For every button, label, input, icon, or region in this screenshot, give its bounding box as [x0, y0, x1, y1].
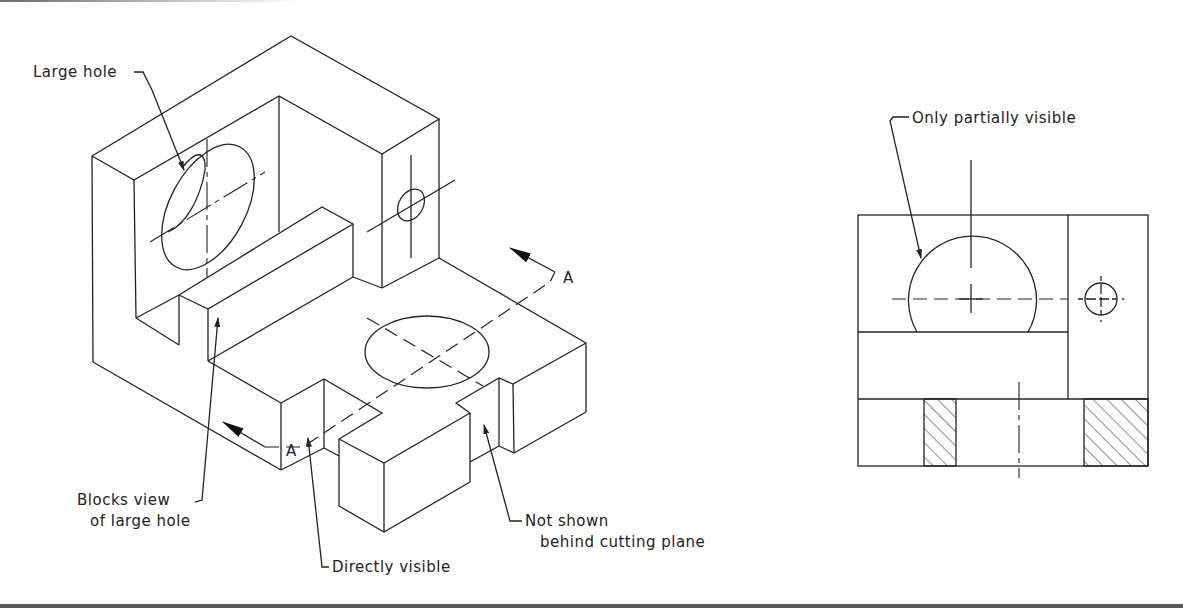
- front-block-bottom: [339, 482, 470, 532]
- top-frame-edge: [0, 0, 300, 2]
- section-arrow-right: [510, 248, 555, 272]
- orthographic-section-view: Only partially visible: [858, 109, 1148, 478]
- slot-floor: [136, 318, 179, 345]
- leader-directly-visible: [308, 438, 329, 567]
- large-hole-inner-edge: [168, 155, 205, 232]
- label-blocks-view-1: Blocks view: [77, 491, 170, 509]
- section-letter-left: A: [286, 442, 297, 460]
- isometric-view: A A Large hole Blocks view of large hole…: [33, 36, 705, 576]
- left-outer-edge: [92, 156, 93, 362]
- slot-back: [136, 295, 179, 318]
- base-hole: [365, 316, 489, 388]
- label-not-shown-1: Not shown: [525, 512, 609, 530]
- left-notch-floor: [324, 448, 339, 456]
- label-only-partially-visible: Only partially visible: [912, 109, 1076, 127]
- rib-top-face: [179, 207, 353, 309]
- cutting-plane-line: [265, 272, 555, 447]
- technical-drawing: A A Large hole Blocks view of large hole…: [0, 0, 1183, 608]
- label-blocks-view-2: of large hole: [90, 512, 191, 530]
- base-right-bottom: [514, 412, 586, 453]
- label-large-hole: Large hole: [33, 63, 117, 81]
- right-notch-edge: [513, 384, 514, 453]
- leader-not-shown: [484, 425, 522, 521]
- leader-blocks-view: [195, 318, 218, 502]
- partial-large-hole: [908, 236, 1036, 332]
- rib-base-right: [353, 277, 382, 288]
- drawing-canvas: A A Large hole Blocks view of large hole…: [0, 0, 1183, 608]
- right-block-bottom: [382, 258, 439, 288]
- rib-bottom-edge: [208, 277, 353, 361]
- right-notch-floor2: [499, 446, 514, 453]
- left-notch-top: [281, 379, 382, 439]
- inner-left-edge: [134, 180, 136, 318]
- base-left-top: [208, 361, 281, 403]
- section-letter-right: A: [563, 269, 574, 287]
- right-notch-floor: [470, 446, 499, 462]
- front-block-top: [339, 413, 470, 463]
- upright-top-face: [92, 36, 439, 180]
- label-not-shown-2: behind cutting plane: [540, 533, 705, 551]
- right-notch-top: [456, 343, 586, 413]
- bottom-frame-bar: [0, 604, 1183, 608]
- section-hatch-left: [924, 399, 956, 466]
- section-hatch-right: [1084, 399, 1148, 466]
- base-hole-centerline: [367, 318, 483, 386]
- section-arrow-left: [223, 422, 265, 447]
- base-left-bottom: [93, 362, 281, 470]
- leader-only-partially-visible: [890, 117, 921, 258]
- label-directly-visible: Directly visible: [332, 558, 451, 576]
